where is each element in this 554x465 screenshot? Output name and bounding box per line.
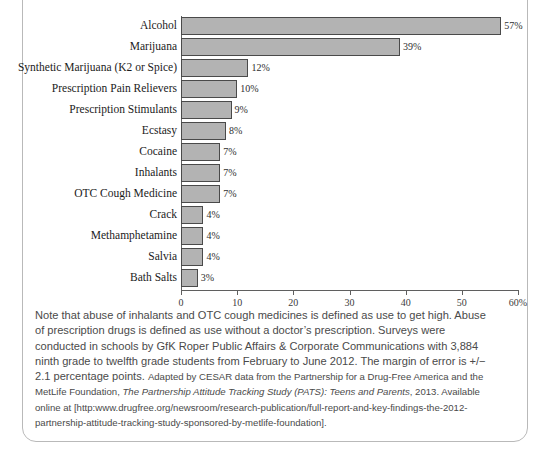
bar: [181, 269, 198, 287]
plot-area: 0102030405060% Alcohol57%Marijuana39%Syn…: [181, 16, 518, 290]
bar-value-label: 39%: [403, 41, 421, 52]
x-tick-50: [462, 290, 463, 295]
bar: [181, 248, 203, 266]
bar-row: OTC Cough Medicine7%: [181, 185, 518, 206]
bar-value-label: 9%: [235, 104, 248, 115]
category-label: OTC Cough Medicine: [74, 187, 177, 199]
bar-value-label: 8%: [229, 125, 242, 136]
bar-value-label: 4%: [206, 209, 219, 220]
bar-row: Marijuana39%: [181, 38, 518, 59]
bar-value-label: 3%: [201, 272, 214, 283]
category-label: Methamphetamine: [91, 229, 177, 241]
bar-row: Cocaine7%: [181, 143, 518, 164]
bar: [181, 59, 248, 77]
bar-row: Prescription Pain Relievers10%: [181, 80, 518, 101]
category-label: Crack: [150, 208, 177, 220]
category-label: Salvia: [148, 250, 177, 262]
figure-page: 0102030405060% Alcohol57%Marijuana39%Syn…: [0, 0, 554, 465]
bar-row: Crack4%: [181, 206, 518, 227]
bar: [181, 206, 203, 224]
x-tick-0: [181, 290, 182, 295]
x-tick-label-10: 10: [232, 297, 242, 308]
bar: [181, 185, 220, 203]
bar: [181, 80, 237, 98]
x-tick-label-40: 40: [401, 297, 411, 308]
bar-value-label: 7%: [223, 167, 236, 178]
bar-value-label: 4%: [206, 230, 219, 241]
x-tick-label-60: 60%: [509, 297, 527, 308]
category-label: Bath Salts: [130, 271, 177, 283]
x-tick-label-50: 50: [457, 297, 467, 308]
bar-value-label: 57%: [504, 20, 522, 31]
bar-row: Prescription Stimulants9%: [181, 101, 518, 122]
category-label: Marijuana: [130, 40, 177, 52]
bar-row: Salvia4%: [181, 248, 518, 269]
category-label: Alcohol: [140, 19, 177, 31]
bar-row: Synthetic Marijuana (K2 or Spice)12%: [181, 59, 518, 80]
x-tick-label-20: 20: [288, 297, 298, 308]
bar-chart: 0102030405060% Alcohol57%Marijuana39%Syn…: [0, 0, 554, 305]
bar: [181, 164, 220, 182]
x-tick-60: [518, 290, 519, 295]
x-tick-label-30: 30: [345, 297, 355, 308]
bar-row: Bath Salts3%: [181, 269, 518, 290]
x-tick-10: [237, 290, 238, 295]
bar: [181, 143, 220, 161]
x-tick-40: [406, 290, 407, 295]
category-label: Cocaine: [139, 145, 177, 157]
bar-value-label: 7%: [223, 146, 236, 157]
bar-row: Alcohol57%: [181, 17, 518, 38]
bar-value-label: 4%: [206, 251, 219, 262]
bar-row: Methamphetamine4%: [181, 227, 518, 248]
category-label: Prescription Stimulants: [69, 103, 177, 115]
bar-row: Inhalants7%: [181, 164, 518, 185]
category-label: Ecstasy: [142, 124, 177, 136]
category-label: Prescription Pain Relievers: [52, 82, 177, 94]
bar: [181, 101, 232, 119]
x-tick-30: [350, 290, 351, 295]
bar-row: Ecstasy8%: [181, 122, 518, 143]
x-tick-label-0: 0: [179, 297, 184, 308]
bar: [181, 17, 501, 35]
caption-source-title: The Partnership Attitude Tracking Study …: [122, 386, 409, 397]
category-label: Synthetic Marijuana (K2 or Spice): [18, 61, 177, 73]
bar-value-label: 12%: [251, 62, 269, 73]
x-tick-20: [293, 290, 294, 295]
category-label: Inhalants: [135, 166, 177, 178]
figure-caption: Note that abuse of inhalants and OTC cou…: [35, 308, 497, 430]
bar: [181, 227, 203, 245]
bar: [181, 122, 226, 140]
bar-value-label: 10%: [240, 83, 258, 94]
bar-value-label: 7%: [223, 188, 236, 199]
bar: [181, 38, 400, 56]
